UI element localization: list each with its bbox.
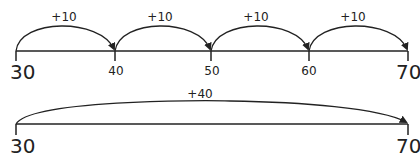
jump-arc-icon xyxy=(16,26,114,51)
tick-label: 40 xyxy=(108,64,123,78)
tick-label-start: 30 xyxy=(10,134,35,158)
top-number-line: +10 +10 +10 +10 30 40 50 60 70 xyxy=(10,10,420,84)
jump-label: +10 xyxy=(340,10,365,24)
jump-arc-icon xyxy=(211,26,308,51)
tick-label-end: 70 xyxy=(396,60,420,84)
jump-label: +10 xyxy=(51,10,76,24)
jump-label: +40 xyxy=(187,87,212,101)
jump-label: +10 xyxy=(243,10,268,24)
jump-arc-icon xyxy=(309,26,407,51)
tick-label-start: 30 xyxy=(10,60,35,84)
bottom-number-line: +40 30 70 xyxy=(10,87,420,158)
jump-arc-icon xyxy=(115,26,210,51)
tick-label-end: 70 xyxy=(396,134,420,158)
tick-label: 60 xyxy=(301,64,316,78)
number-line-diagram: +10 +10 +10 +10 30 40 50 60 70 +40 30 70 xyxy=(0,0,420,161)
jump-arc-icon xyxy=(16,101,406,124)
tick-label: 50 xyxy=(204,64,219,78)
jump-label: +10 xyxy=(147,10,172,24)
